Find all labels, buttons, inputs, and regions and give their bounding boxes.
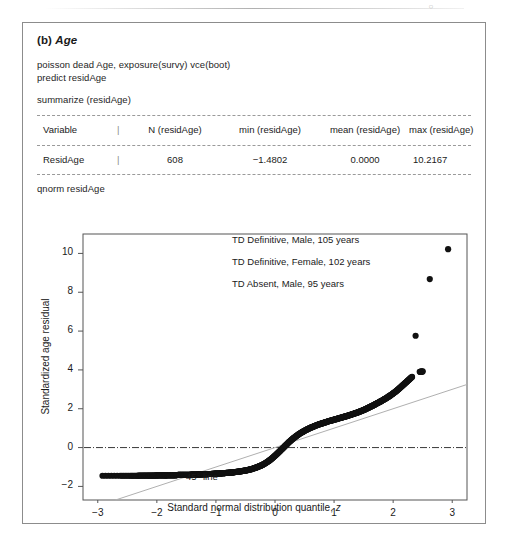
figure-panel: (b) Age poisson dead Age, exposure(survy… <box>22 22 486 524</box>
y-tick-label: 2 <box>47 402 73 413</box>
table-header-row: Variable | N (residAge) min (residAge) m… <box>37 115 471 145</box>
x-tick-label: 3 <box>437 507 467 518</box>
figure-title-text: Age <box>55 34 77 46</box>
x-tick-label: 1 <box>319 507 349 518</box>
column-header-variable: Variable <box>43 115 77 145</box>
column-header-min: min (residAge) <box>223 115 317 145</box>
annotation-outlier-2: TD Definitive, Female, 102 years <box>232 256 370 267</box>
x-tick-label: −2 <box>142 507 172 518</box>
code-line-summarize: summarize (residAge) <box>37 94 131 105</box>
y-tick-label: 4 <box>47 363 73 374</box>
x-tick-label: −3 <box>83 507 113 518</box>
column-header-mean: mean (residAge) <box>319 115 411 145</box>
annotation-outlier-1: TD Definitive, Male, 105 years <box>232 234 359 245</box>
page-header-mark: ○ <box>424 2 438 11</box>
x-tick-label: 2 <box>378 507 408 518</box>
y-tick-label: −2 <box>47 479 73 490</box>
cell-mean: 0.0000 <box>319 145 411 175</box>
qq-plot: Standardized age residual Standard norma… <box>23 203 485 523</box>
page-header-rule <box>44 8 464 9</box>
figure-label: (b) <box>37 34 52 46</box>
cell-max: 10.2167 <box>413 145 475 175</box>
y-tick-label: 6 <box>47 324 73 335</box>
table-row: ResidAge | 608 −1.4802 0.0000 10.2167 <box>37 145 471 175</box>
table-separator: | <box>117 145 119 175</box>
annotation-outlier-3: TD Absent, Male, 95 years <box>232 278 344 289</box>
code-line-poisson: poisson dead Age, exposure(survy) vce(bo… <box>37 59 230 70</box>
y-tick-label: 8 <box>47 285 73 296</box>
cell-min: −1.4802 <box>223 145 317 175</box>
qq-plot-svg <box>23 203 485 503</box>
figure-title: (b) Age <box>37 34 77 46</box>
x-axis-label-text: Standard normal distribution quantile, <box>167 502 333 513</box>
x-tick-label: −1 <box>201 507 231 518</box>
plot-frame <box>83 234 467 500</box>
forty-five-degree-line-label: 45° line <box>186 471 218 482</box>
cell-n: 608 <box>129 145 221 175</box>
summary-table: Variable | N (residAge) min (residAge) m… <box>37 115 471 177</box>
cell-variable: ResidAge <box>43 145 84 175</box>
y-axis-label: Standardized age residual <box>40 247 51 467</box>
column-header-max: max (residAge) <box>409 115 471 145</box>
table-separator: | <box>117 115 119 145</box>
x-tick-label: 0 <box>260 507 290 518</box>
y-tick-label: 0 <box>47 441 73 452</box>
column-header-n: N (residAge) <box>129 115 221 145</box>
code-line-qnorm: qnorm residAge <box>37 183 105 194</box>
y-tick-label: 10 <box>47 246 73 257</box>
code-line-predict: predict residAge <box>37 72 106 83</box>
